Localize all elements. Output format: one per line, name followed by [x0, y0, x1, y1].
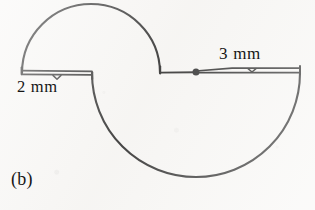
- upper-left-semicircle-arc: [22, 4, 160, 73]
- figure-part-label: (b): [11, 170, 33, 188]
- dimension-label-3mm: 3 mm: [219, 45, 261, 62]
- lower-right-semicircle-arc: [92, 73, 300, 177]
- composite-semicircle-figure: [0, 0, 315, 210]
- left-dimension-line-upper: [22, 71, 92, 72]
- right-dimension-arrow-tick: [248, 69, 256, 72]
- figure-canvas: 2 mm 3 mm (b): [0, 0, 315, 210]
- dimension-label-2mm: 2 mm: [17, 79, 58, 96]
- center-point-dot: [193, 69, 200, 76]
- left-dimension-line-lower: [22, 74, 92, 75]
